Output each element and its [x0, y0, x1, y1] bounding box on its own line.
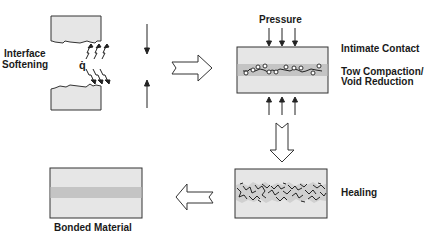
label-bonded-material: Bonded Material: [54, 222, 132, 233]
heat-flux-symbol: q̇: [79, 60, 86, 71]
stage2-pressure-arrows-top-icon: [267, 28, 298, 46]
label-softening: Softening: [2, 59, 48, 70]
stage3-panel: [235, 169, 327, 218]
press-up-arrow-icon: [145, 80, 150, 108]
heat-flux-arrows-up-icon: [86, 44, 109, 59]
stage4-panel: [50, 168, 142, 218]
press-down-arrow-icon: [145, 24, 150, 54]
stage1-lower-plate: [51, 84, 101, 110]
stage2-pressure-arrows-bottom-icon: [267, 97, 298, 115]
label-pressure: Pressure: [259, 14, 302, 25]
stage2-panel: [237, 47, 328, 93]
label-intimate-contact: Intimate Contact: [341, 43, 419, 54]
label-void-reduction: Void Reduction: [341, 76, 414, 87]
flow-arrow-left-icon: [176, 184, 213, 210]
stage1-upper-plate: [51, 16, 101, 43]
flow-arrow-down-icon: [270, 123, 294, 162]
process-diagram: [0, 0, 439, 240]
flow-arrow-right-icon: [172, 55, 212, 81]
label-healing: Healing: [341, 187, 377, 198]
heat-flux-arrows-down-icon: [86, 69, 110, 84]
label-interface: Interface: [4, 48, 46, 59]
